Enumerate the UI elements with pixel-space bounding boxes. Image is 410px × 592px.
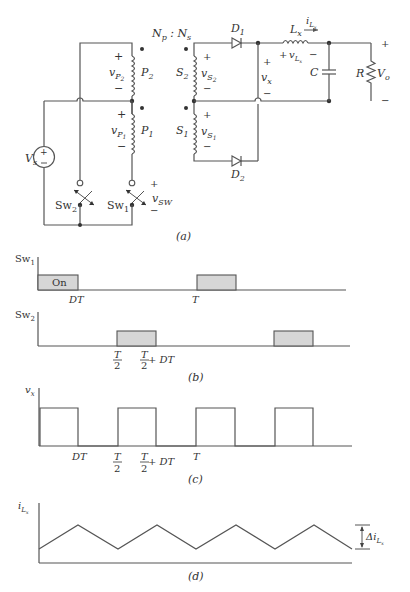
vo-minus: − [381,95,389,106]
polarity-dot-s1 [184,106,188,110]
lx-label: Lx [289,23,302,38]
sw2-axis-label: Sw2 [15,309,35,323]
svg-text:2: 2 [141,463,147,474]
sw2-pulse-1 [117,331,156,346]
vp2-label: vP2 [109,66,125,82]
sw1-terminal [129,180,135,186]
supply-wire [44,98,132,101]
p2-label: P2 [140,66,154,81]
p1-label: P1 [140,124,154,139]
vx-trace [40,408,313,446]
tick-t-half-plus-dt-c: T 2 + DT [140,451,176,474]
tick-t-half-c: T 2 [113,451,122,474]
polarity-dot-p1 [140,106,144,110]
caption-a: (a) [176,230,191,243]
vs2-minus: − [203,83,211,94]
ilx-label: iLx [306,15,317,30]
vx-minus: − [263,88,271,99]
svg-text:+ DT: + DT [148,354,176,365]
polarity-dot-s2 [184,47,188,51]
ilx-axis-label: iLx [18,500,29,515]
vsw-plus: + [150,178,158,189]
svg-text:2: 2 [141,360,147,371]
sw1-label: Sw1 [107,199,129,214]
tick-t-half: T 2 [113,349,122,371]
caption-d: (d) [188,570,204,583]
caption-b: (b) [188,371,204,384]
vp2-plus: + [114,50,123,63]
s1-label: S1 [176,124,189,139]
c-label: C [310,66,319,79]
sw2-terminal [77,180,83,186]
tick-dt: DT [68,294,85,305]
sw1-waveform: Sw1 On DT T [15,253,346,305]
sw1-axis-label: Sw1 [15,253,35,267]
vp1-label: vP1 [111,124,126,140]
polarity-dot-p2 [140,47,144,51]
circuit-schematic: Np : Ns + vP2 − P2 + vP1 − P1 + V [25,15,390,243]
winding-s1 [194,114,197,154]
caption-c: (c) [188,473,203,486]
resistor-r [367,43,375,101]
vs1-minus: − [203,141,211,152]
vs2-plus: + [203,51,211,62]
vx-axis-label: vx [25,384,35,398]
vp1-minus: − [117,140,126,153]
tick-t-c: T [193,451,201,462]
vs1-label: vS1 [201,125,217,141]
sw2-pulse-2 [274,331,313,346]
winding-p2 [132,56,135,96]
vs2-label: vS2 [201,67,217,83]
d1-label: D1 [230,22,245,37]
svg-text:2: 2 [114,463,120,474]
vx-waveform: vx DT T 2 T 2 + DT T (c) [25,384,352,486]
vx-label: vx [261,71,272,86]
vx-plus: + [263,56,271,67]
vs-plus: + [40,147,48,157]
switch-sw1 [126,190,146,205]
vp1-plus: + [117,108,126,121]
tick-t-half-plus-dt: T 2 + DT [140,349,176,371]
winding-p1 [132,114,135,154]
sw2-label: Sw2 [55,199,77,214]
delta-ilx-label: ΔiLx [365,531,384,546]
svg-text:2: 2 [114,360,120,371]
on-label: On [52,277,67,288]
vlx-minus: − [309,49,317,60]
vo-plus: + [381,38,389,49]
ilx-trace [39,525,352,549]
vlx-label: vLx [289,49,302,64]
vo-label: Vo [377,67,390,82]
vsw-minus: − [150,205,158,216]
secondary-return-wire [194,98,329,101]
svg-text:T: T [114,349,122,360]
r-label: R [355,67,364,80]
figure-canvas: Np : Ns + vP2 − P2 + vP1 − P1 + V [0,0,410,592]
winding-s2 [194,56,197,96]
s2-label: S2 [176,66,189,81]
vlx-plus: + [279,49,287,60]
inductor-lx [283,41,308,44]
ilx-waveform: iLx ΔiLx (d) [18,500,384,583]
vs1-plus: + [203,109,211,120]
sw1-pulse-2 [197,275,236,290]
tick-t: T [192,294,200,305]
diode-d1 [232,38,241,48]
svg-text:T: T [114,451,122,462]
d2-label: D2 [230,168,245,183]
switch-sw2 [74,190,94,205]
sw2-waveform: Sw2 T 2 T 2 + DT (b) [15,309,350,384]
svg-text:+ DT: + DT [148,456,176,467]
vp2-minus: − [114,82,123,95]
diode-d2 [232,156,241,166]
primary-top-wire [80,43,132,101]
turns-ratio-label: Np : Ns [151,27,191,42]
tick-dt-c: DT [71,451,88,462]
